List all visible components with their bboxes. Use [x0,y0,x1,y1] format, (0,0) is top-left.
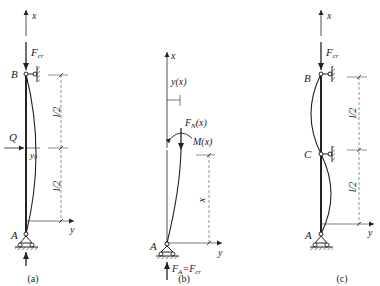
dim-lower-label: l/2 [51,181,62,192]
caption-b: (b) [178,273,190,285]
figure-b: x y(x) FN(x) M(x) x y A FA=Fcr (b) [149,50,223,285]
moment-label: M(x) [192,136,213,148]
dim-upper-label: l/2 [51,107,62,118]
figure-c: x Fcr B C l/2 l/2 y [304,10,374,285]
deflection-label: y(x) [170,76,187,88]
pin-C [319,152,323,156]
pin-B [319,72,323,76]
deflected-segment [167,150,181,243]
load-label: Fcr [30,46,44,60]
caption-a: (a) [27,273,38,285]
axis-y-label: y [217,247,223,258]
dim-upper-label: l/2 [347,108,358,119]
axis-y-label: y [69,224,75,235]
point-A-label: A [10,229,18,241]
load-label: Fcr [325,46,339,60]
pin-B [24,72,28,76]
caption-c: (c) [336,273,347,285]
wall-hatch [37,66,40,82]
axis-x-label: x [326,10,332,21]
point-B-label: B [11,68,18,80]
buckling-diagram: x Fcr B Q y0 l/2 l/2 y [0,0,380,286]
point-C-label: C [304,148,312,160]
point-B-label: B [304,72,311,84]
axis-y-label: y [367,227,373,238]
lateral-load-label: Q [9,131,17,143]
axis-x-label: x [170,50,176,61]
point-A-label: A [304,229,312,241]
axis-x-label: x [31,10,37,21]
dim-x-label: x [196,197,207,203]
figure-a: x Fcr B Q y0 l/2 l/2 y [4,10,75,285]
normal-force-label: FN(x) [184,117,208,130]
point-A-label: A [149,240,157,252]
dim-lower-label: l/2 [347,182,358,193]
